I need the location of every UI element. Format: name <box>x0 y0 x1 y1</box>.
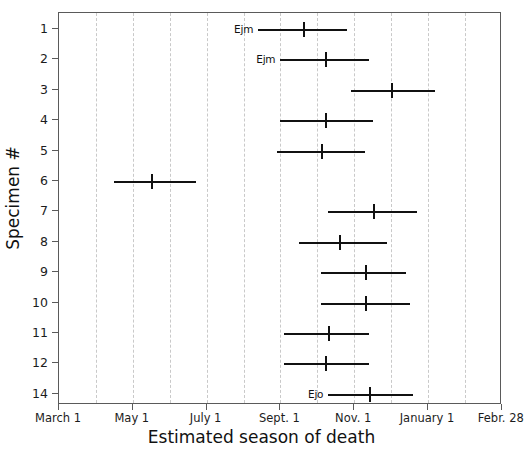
y-axis-tick <box>52 271 58 272</box>
x-axis-tick <box>132 404 133 410</box>
median-tick <box>325 356 327 371</box>
y-axis-tick <box>52 241 58 242</box>
median-tick <box>365 296 367 311</box>
x-gridline <box>207 13 208 403</box>
y-axis-tick <box>52 58 58 59</box>
y-axis-tick-label: 5 <box>8 142 48 157</box>
interval-bar <box>114 181 195 183</box>
x-gridline <box>133 13 134 403</box>
median-tick <box>303 22 305 37</box>
median-tick <box>151 174 153 189</box>
x-axis-tick-label: Nov. 1 <box>335 411 371 425</box>
y-axis-tick-label: 1 <box>8 21 48 36</box>
point-annotation-label: Ejm <box>256 53 275 65</box>
x-gridline <box>428 13 429 403</box>
interval-bar <box>299 242 388 244</box>
x-axis-tick <box>501 404 502 410</box>
y-axis-tick <box>52 28 58 29</box>
y-axis-tick-label: 7 <box>8 203 48 218</box>
y-axis-tick-label: 11 <box>8 325 48 340</box>
y-axis-tick-label: 10 <box>8 294 48 309</box>
median-tick <box>373 204 375 219</box>
y-axis-title: Specimen # <box>3 108 23 288</box>
y-axis-tick-label: 9 <box>8 264 48 279</box>
point-annotation-label: Ejo <box>308 388 323 400</box>
x-gridline <box>465 13 466 403</box>
x-axis-tick <box>206 404 207 410</box>
x-axis-tick-label: Febr. 28 <box>478 411 524 425</box>
y-axis-tick-label: 14 <box>8 385 48 400</box>
y-axis-tick <box>52 302 58 303</box>
y-axis-tick-label: 6 <box>8 173 48 188</box>
x-axis-tick-label: July 1 <box>190 411 222 425</box>
x-axis-tick <box>427 404 428 410</box>
x-axis-tick-label: May 1 <box>114 411 149 425</box>
median-tick <box>369 387 371 402</box>
median-tick <box>325 113 327 128</box>
plot-area: EjmEjmEjo <box>58 12 501 404</box>
x-axis-tick <box>353 404 354 410</box>
x-gridline <box>280 13 281 403</box>
x-axis-title: Estimated season of death <box>0 427 523 447</box>
median-tick <box>321 144 323 159</box>
x-gridline <box>354 13 355 403</box>
interval-bar <box>321 272 406 274</box>
y-axis-tick <box>52 89 58 90</box>
x-gridline <box>96 13 97 403</box>
y-axis-tick <box>52 332 58 333</box>
x-gridline <box>391 13 392 403</box>
point-annotation-label: Ejm <box>234 23 253 35</box>
y-axis-tick-label: 2 <box>8 51 48 66</box>
median-tick <box>391 83 393 98</box>
x-gridline <box>170 13 171 403</box>
y-axis-tick <box>52 180 58 181</box>
x-axis-tick-label: January 1 <box>400 411 455 425</box>
median-tick <box>365 265 367 280</box>
y-axis-tick <box>52 362 58 363</box>
x-gridline <box>244 13 245 403</box>
x-axis-tick <box>58 404 59 410</box>
y-axis-tick <box>52 210 58 211</box>
y-axis-tick-label: 4 <box>8 112 48 127</box>
x-axis-tick-label: Sept. 1 <box>259 411 300 425</box>
y-axis-tick-label: 12 <box>8 355 48 370</box>
y-axis-tick <box>52 119 58 120</box>
y-axis-tick <box>52 393 58 394</box>
x-axis-tick-label: March 1 <box>35 411 81 425</box>
median-tick <box>325 52 327 67</box>
median-tick <box>328 326 330 341</box>
interval-bar <box>284 333 369 335</box>
x-gridline <box>317 13 318 403</box>
y-axis-tick-label: 3 <box>8 81 48 96</box>
median-tick <box>339 235 341 250</box>
y-axis-tick <box>52 150 58 151</box>
y-axis-tick-label: 8 <box>8 233 48 248</box>
x-axis-tick <box>279 404 280 410</box>
